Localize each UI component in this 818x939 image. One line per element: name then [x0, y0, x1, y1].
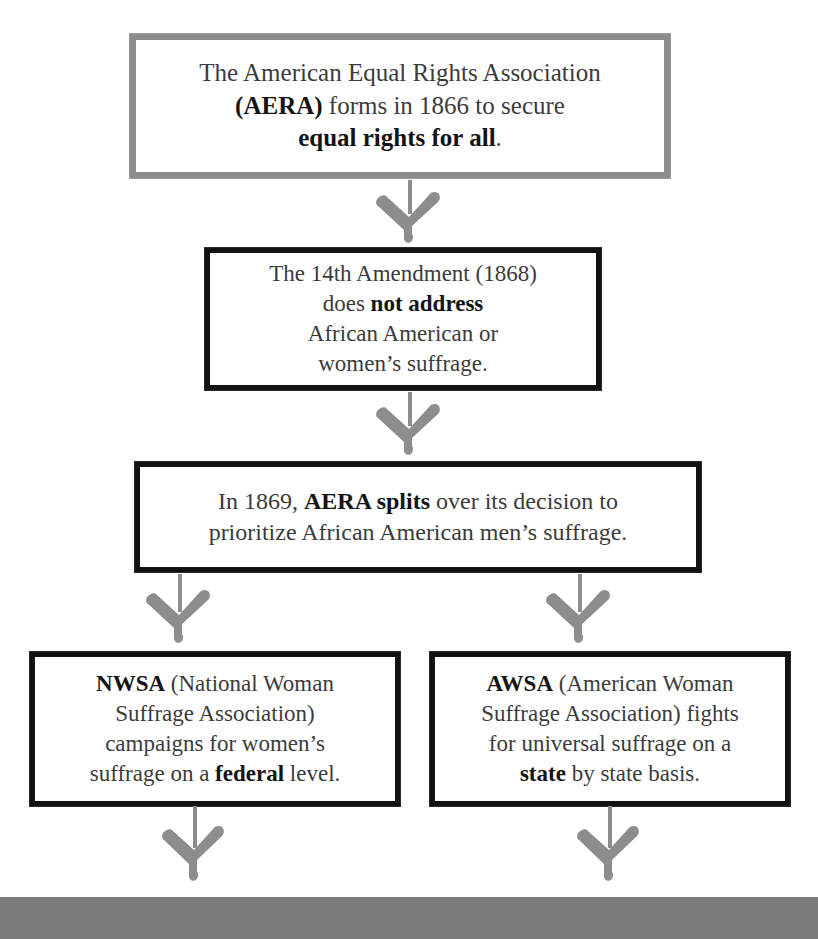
arrow-nwsa-to-bar-icon [155, 806, 235, 886]
flow-node-aera-splits: In 1869, AERA splits over its decision t… [135, 462, 701, 572]
flow-node-aera-splits-text: In 1869, AERA splits over its decision t… [140, 486, 696, 548]
flow-node-awsa-text: AWSA (American WomanSuffrage Association… [435, 669, 785, 789]
arrow-split-to-awsa-icon [538, 574, 622, 646]
flow-node-awsa: AWSA (American WomanSuffrage Association… [430, 652, 790, 806]
arrow-aera-to-14th-icon [368, 180, 452, 246]
flow-node-14th-amendment-text: The 14th Amendment (1868)does not addres… [210, 259, 596, 379]
arrow-split-to-nwsa-icon [138, 574, 222, 646]
arrow-awsa-to-bar-icon [570, 806, 650, 886]
flow-node-nwsa-text: NWSA (National WomanSuffrage Association… [35, 669, 395, 789]
flowchart-canvas: The American Equal Rights Association(AE… [0, 0, 818, 939]
flow-node-nwsa: NWSA (National WomanSuffrage Association… [30, 652, 400, 806]
flow-node-aera: The American Equal Rights Association(AE… [130, 34, 670, 178]
flow-node-aera-text: The American Equal Rights Association(AE… [136, 57, 664, 155]
arrow-14th-to-split-icon [368, 392, 452, 458]
bottom-gray-banner [0, 897, 818, 939]
flow-node-14th-amendment: The 14th Amendment (1868)does not addres… [205, 248, 601, 390]
